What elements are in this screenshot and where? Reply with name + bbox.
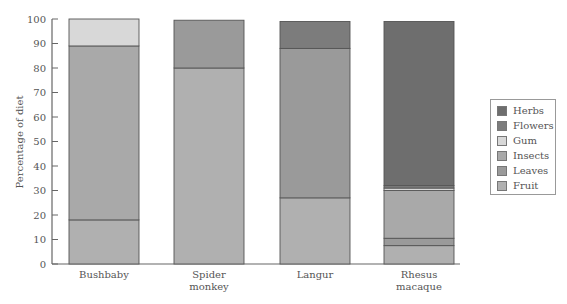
- legend-label: Insects: [513, 150, 549, 161]
- bar-segment-gum: [69, 19, 139, 46]
- legend-label: Herbs: [513, 105, 544, 116]
- legend-swatch-icon: [497, 151, 507, 161]
- legend-swatch-icon: [497, 181, 507, 191]
- bar-segment-leaves: [384, 238, 454, 245]
- y-tick-label: 30: [33, 185, 46, 196]
- legend-item-leaves: Leaves: [497, 163, 555, 178]
- legend-label: Fruit: [513, 180, 538, 191]
- bar-segment-fruit: [280, 198, 350, 264]
- legend-label: Leaves: [513, 165, 548, 176]
- bar-segment-flowers: [280, 21, 350, 48]
- legend-item-insects: Insects: [497, 148, 555, 163]
- stacked-bar-chart: 0102030405060708090100 Percentage of die…: [0, 0, 567, 304]
- y-tick-label: 0: [40, 259, 46, 270]
- y-tick-label: 50: [33, 136, 46, 147]
- x-tick-label: Bushbaby: [79, 269, 129, 280]
- y-tick-label: 60: [33, 112, 46, 123]
- y-tick-label: 70: [33, 87, 46, 98]
- bar-spider-monkey: [174, 20, 244, 264]
- y-tick-label: 40: [33, 161, 46, 172]
- legend-item-gum: Gum: [497, 133, 555, 148]
- y-tick-label: 80: [33, 63, 46, 74]
- bar-segment-fruit: [384, 246, 454, 264]
- legend-item-flowers: Flowers: [497, 118, 555, 133]
- bar-segment-insects: [384, 191, 454, 239]
- legend: HerbsFlowersGumInsectsLeavesFruit: [490, 99, 556, 195]
- bar-segment-fruit: [69, 220, 139, 264]
- x-tick-label: Spidermonkey: [189, 269, 229, 292]
- y-tick-label: 100: [27, 14, 46, 25]
- y-axis-label: Percentage of diet: [14, 96, 25, 189]
- bar-bushbaby: [69, 19, 139, 264]
- legend-swatch-icon: [497, 106, 507, 116]
- bars: [69, 19, 454, 264]
- bar-segment-leaves: [174, 20, 244, 68]
- y-tick-label: 90: [33, 38, 46, 49]
- bar-rhesus-macaque: [384, 21, 454, 264]
- bar-segment-herbs: [384, 21, 454, 185]
- legend-label: Gum: [513, 135, 537, 146]
- x-tick-label: Langur: [297, 269, 334, 280]
- x-tick-label: Rhesusmacaque: [396, 269, 442, 292]
- legend-swatch-icon: [497, 136, 507, 146]
- bar-segment-leaves: [280, 48, 350, 197]
- x-axis-labels: BushbabySpidermonkeyLangurRhesusmacaque: [79, 269, 442, 292]
- y-tick-label: 10: [33, 234, 46, 245]
- legend-label: Flowers: [513, 120, 554, 131]
- bar-langur: [280, 21, 350, 264]
- legend-swatch-icon: [497, 121, 507, 131]
- bar-segment-insects: [69, 46, 139, 220]
- legend-item-fruit: Fruit: [497, 178, 555, 193]
- legend-item-herbs: Herbs: [497, 103, 555, 118]
- y-tick-label: 20: [33, 210, 46, 221]
- legend-swatch-icon: [497, 166, 507, 176]
- bar-segment-fruit: [174, 68, 244, 264]
